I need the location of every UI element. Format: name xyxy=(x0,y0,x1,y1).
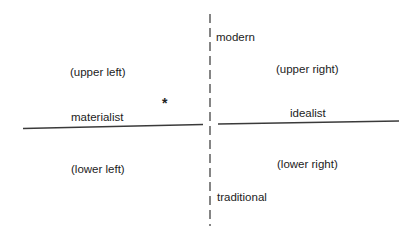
axes-lines xyxy=(0,0,416,235)
quadrant-label-lower-right: (lower right) xyxy=(277,158,338,171)
axis-label-materialist: materialist xyxy=(71,111,123,124)
quadrant-label-upper-left: (upper left) xyxy=(70,66,126,79)
horizontal-axis-right xyxy=(218,121,399,124)
asterisk-marker: * xyxy=(162,96,167,110)
quadrant-label-lower-left: (lower left) xyxy=(71,163,125,176)
quadrant-diagram: modern (upper left) (upper right) * mate… xyxy=(0,0,416,235)
quadrant-label-upper-right: (upper right) xyxy=(276,63,339,76)
horizontal-axis-left xyxy=(23,125,203,129)
axis-label-idealist: idealist xyxy=(290,107,326,120)
axis-label-modern: modern xyxy=(216,31,255,44)
axis-label-traditional: traditional xyxy=(217,191,267,204)
